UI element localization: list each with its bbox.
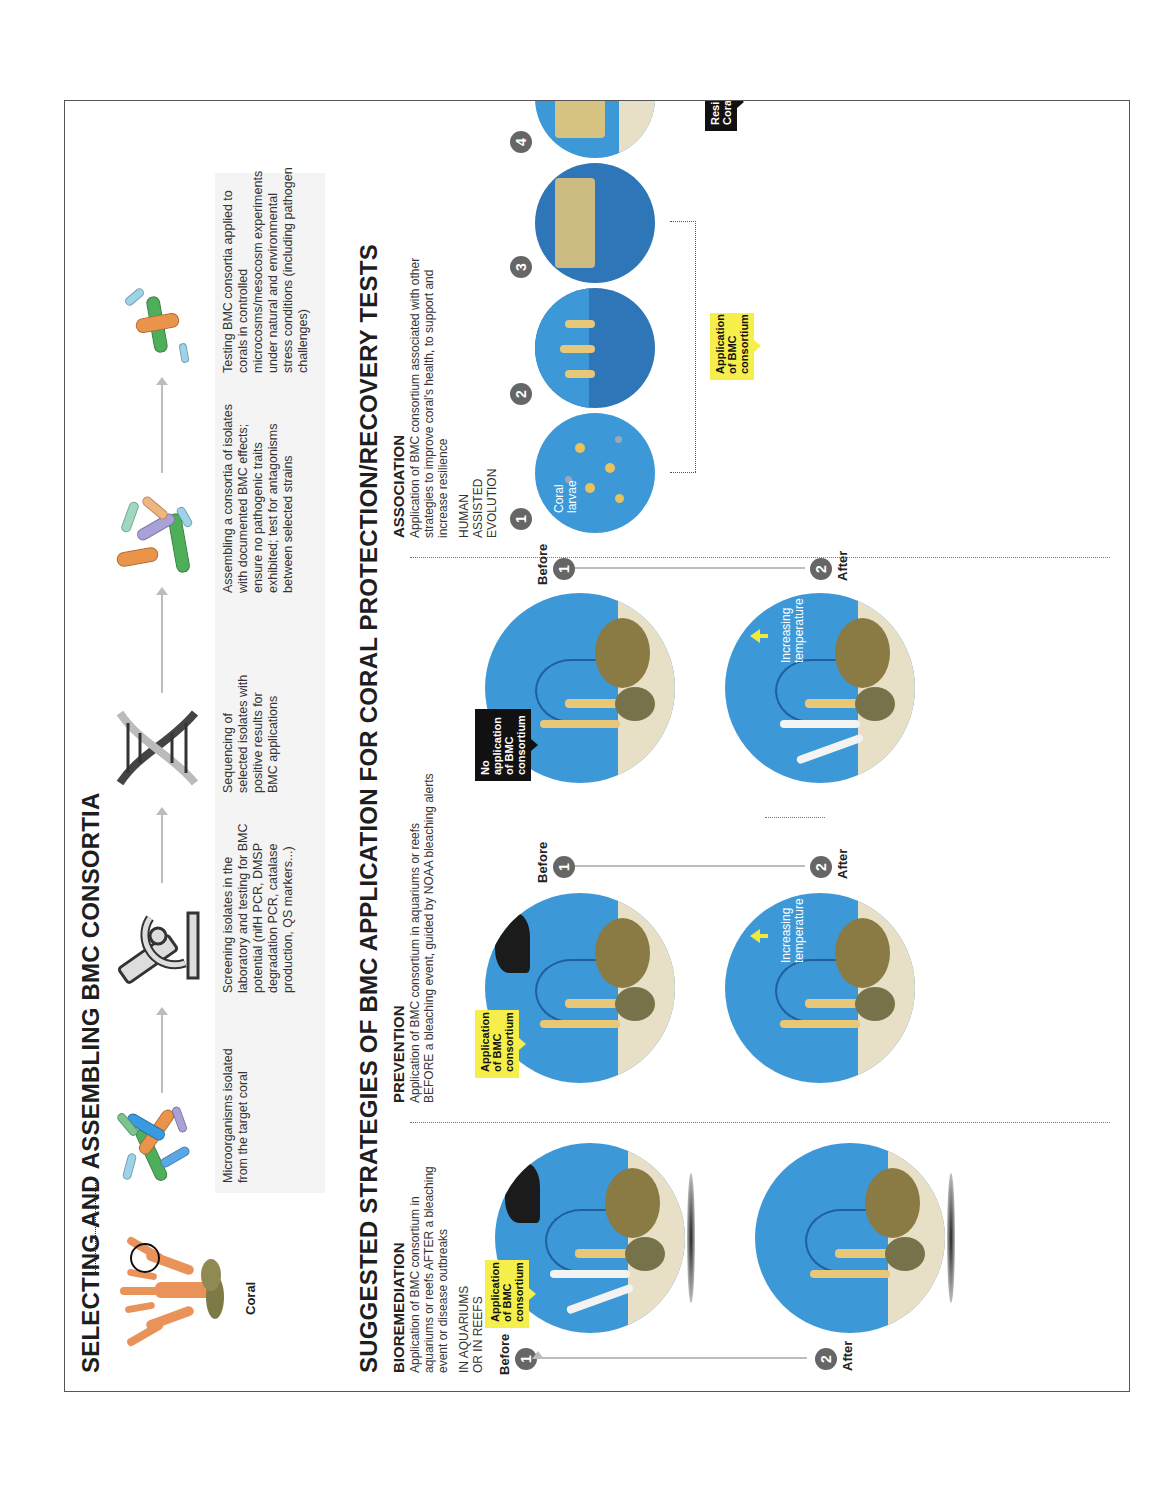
step-text-5: Testing BMC consortia applied to corals … (221, 158, 311, 373)
association-subtitle: HUMAN ASSISTED EVOLUTION (457, 448, 499, 538)
scene-bioremediation-after (755, 1143, 945, 1333)
microorganisms-icon (115, 1098, 205, 1188)
before-label: Before (535, 544, 550, 585)
step-text-1: Microorganisms isolated from the target … (221, 1043, 251, 1183)
prevention-title: PREVENTION (390, 1005, 407, 1103)
step-badge-1: 1 (553, 558, 575, 580)
temperature-up-icon (750, 629, 760, 643)
scene-association-larvae: Coral larvae (535, 413, 655, 533)
scene-prevention-b-after: Increasing temperature (725, 593, 915, 783)
scene-association-growth (535, 163, 655, 283)
bioremediation-setting: IN AQUARIUMS OR IN REEFS (457, 1283, 485, 1373)
step-badge-2: 2 (810, 558, 832, 580)
tag-application: Application of BMC consortium (710, 313, 754, 380)
step-text-2: Screening isolates in the laboratory and… (221, 818, 296, 993)
scene-association-settlement (535, 288, 655, 408)
association-title: ASSOCIATION (390, 435, 407, 538)
temperature-label: Increasing temperature (780, 593, 806, 663)
scene-prevention-a-after: Increasing temperature (725, 893, 915, 1083)
flow-arrow-vertical (575, 567, 805, 569)
before-label: Before (497, 1334, 512, 1375)
bacteria-test-icon (110, 273, 205, 363)
divider-bioremediation-prevention (410, 1122, 1110, 1123)
step-text-3: Sequencing of selected isolates with pos… (221, 673, 281, 793)
flow-arrow-vertical (537, 1357, 807, 1359)
temperature-up-icon (750, 929, 760, 943)
coral-icon (115, 1223, 225, 1353)
tag-application: Application of BMC consortium (475, 1010, 519, 1078)
step-badge-1: 1 (553, 856, 575, 878)
divider-prevention-rows (765, 817, 825, 818)
step-text-4: Assembling a consortia of isolates with … (221, 398, 296, 593)
bacteria-consortium-icon (110, 488, 205, 578)
section-title-strategies: SUGGESTED STRATEGIES OF BMC APPLICATION … (355, 244, 383, 1373)
step-badge-2: 2 (510, 383, 532, 405)
tag-no-application: No application of BMC consortium (475, 709, 531, 781)
before-label: Before (535, 842, 550, 883)
coral-larvae-label: Coral larvae (553, 463, 579, 513)
flow-arrow (161, 593, 163, 693)
after-label: After (835, 551, 850, 581)
step-badge-2: 2 (815, 1348, 837, 1370)
prevention-description: Application of BMC consortium in aquariu… (408, 773, 436, 1103)
flow-arrow (161, 1013, 163, 1093)
step-badge-4: 4 (510, 131, 532, 153)
association-bracket (670, 221, 696, 473)
tag-application: Application of BMC consortium (485, 1260, 529, 1328)
flow-arrow (161, 383, 163, 473)
section-title-selecting: SELECTING AND ASSEMBLING BMC CONSORTIA (77, 793, 105, 1374)
coral-label: Coral (243, 1282, 258, 1315)
divider-prevention-association (410, 557, 1110, 558)
dna-icon (110, 703, 205, 793)
bioremediation-title: BIOREMEDIATION (390, 1242, 407, 1373)
flow-arrow (161, 813, 163, 883)
step-badge-3: 3 (510, 256, 532, 278)
flow-arrow-vertical (575, 865, 805, 867)
microscope-icon (110, 898, 205, 988)
bioremediation-description: Application of BMC consortium in aquariu… (408, 1143, 450, 1373)
coral-zoom-connector (95, 1183, 96, 1273)
scene-association-resilient (535, 100, 655, 158)
step-badge-2: 2 (810, 856, 832, 878)
tag-resilient-corals: Resilient Corals (705, 100, 737, 131)
coral-illustration (115, 1223, 225, 1353)
after-label: After (840, 1341, 855, 1371)
figure-frame: SELECTING AND ASSEMBLING BMC CONSORTIA C… (64, 100, 1130, 1392)
after-label: After (835, 849, 850, 879)
temperature-label: Increasing temperature (780, 893, 806, 963)
step-badge-1: 1 (510, 508, 532, 530)
scene-shadow (687, 1173, 695, 1303)
scene-shadow (947, 1173, 955, 1303)
association-description: Application of BMC consortium associated… (408, 238, 450, 538)
figure-canvas: SELECTING AND ASSEMBLING BMC CONSORTIA C… (65, 101, 1130, 1392)
